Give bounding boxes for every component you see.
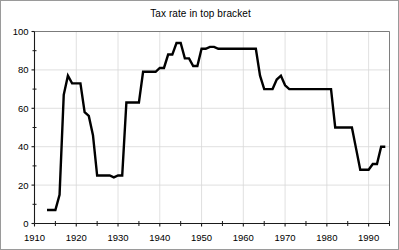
x-axis-tick-label: 1960 — [233, 232, 254, 243]
x-axis-tick-label: 1970 — [275, 232, 296, 243]
y-axis-tick-label: 40 — [18, 141, 29, 152]
y-axis-tick-label: 80 — [18, 64, 29, 75]
x-axis-tick-label: 1980 — [316, 232, 337, 243]
y-axis-tick-label: 20 — [18, 180, 29, 191]
x-axis-tick-label: 1930 — [107, 232, 128, 243]
y-axis-tick-label: 0 — [23, 218, 28, 229]
y-axis-tick-label: 100 — [13, 26, 29, 37]
x-axis-tick-labels: 191019201930194019501960197019801990 — [24, 232, 379, 243]
chart-figure: Tax rate in top bracket 020406080100 191… — [0, 0, 399, 250]
line-chart-plot: 020406080100 191019201930194019501960197… — [1, 1, 399, 250]
y-axis-tick-label: 60 — [18, 103, 29, 114]
x-axis-tick-label: 1940 — [149, 232, 170, 243]
y-axis-tick-labels: 020406080100 — [13, 26, 29, 229]
x-axis-tick-label: 1990 — [358, 232, 379, 243]
axis-ticks-group — [32, 32, 390, 227]
x-axis-tick-label: 1920 — [66, 232, 87, 243]
x-axis-tick-label: 1910 — [24, 232, 45, 243]
x-axis-tick-label: 1950 — [191, 232, 212, 243]
